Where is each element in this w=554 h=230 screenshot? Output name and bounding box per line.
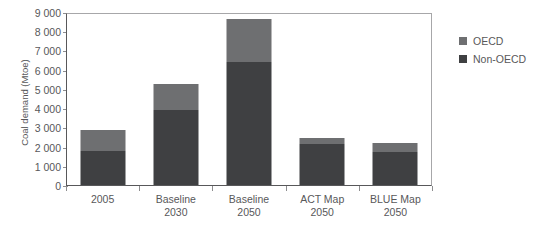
- bar-group: [67, 14, 431, 185]
- x-axis-label-group: 2005Baseline2030Baseline2050ACT Map2050B…: [66, 193, 432, 219]
- x-axis-tick-group: [66, 186, 432, 192]
- x-axis-category-label-line: 2050: [286, 206, 359, 219]
- y-axis-tick-label: 5 000: [14, 84, 61, 96]
- x-axis-tick-mark: [139, 186, 140, 191]
- y-axis-tick-group: 9 0008 0007 0006 0005 0004 0003 0002 000…: [14, 7, 61, 193]
- bar-segment-non-oecd[interactable]: [372, 152, 417, 185]
- x-axis-tick-mark: [66, 186, 67, 191]
- bar-segment-non-oecd[interactable]: [226, 62, 271, 185]
- bar-segment-non-oecd[interactable]: [154, 110, 199, 185]
- bar-slot: [358, 14, 431, 185]
- stacked-bar[interactable]: [299, 138, 344, 185]
- legend-item[interactable]: Non-OECD: [459, 51, 526, 67]
- bar-slot: [140, 14, 213, 185]
- x-axis-category-label-line: 2030: [139, 206, 212, 219]
- bar-slot: [213, 14, 286, 185]
- x-axis-tick-mark: [359, 186, 360, 191]
- bar-segment-non-oecd[interactable]: [81, 151, 126, 185]
- x-axis-category-label-line: 2050: [359, 206, 432, 219]
- x-axis-tick-mark: [432, 186, 433, 191]
- bar-slot: [67, 14, 140, 185]
- y-axis-tick-label: 9 000: [14, 7, 61, 19]
- y-axis-tick-label: 3 000: [14, 122, 61, 134]
- bar-slot: [285, 14, 358, 185]
- plot-area: [66, 13, 432, 186]
- bar-segment-oecd[interactable]: [372, 143, 417, 153]
- legend-item[interactable]: OECD: [459, 33, 526, 49]
- bar-segment-non-oecd[interactable]: [299, 144, 344, 185]
- legend-item-label: Non-OECD: [473, 53, 526, 65]
- bar-segment-oecd[interactable]: [154, 84, 199, 110]
- x-axis-tick-mark: [286, 186, 287, 191]
- x-axis-category-label: ACT Map2050: [286, 193, 359, 219]
- y-axis-tick-label: 4 000: [14, 103, 61, 115]
- x-axis-tick-mark: [212, 186, 213, 191]
- x-axis-category-label: Baseline2030: [139, 193, 212, 219]
- legend-swatch-icon: [459, 55, 467, 63]
- y-axis-tick-label: 7 000: [14, 45, 61, 57]
- x-axis-category-label-line: ACT Map: [286, 193, 359, 206]
- y-axis-tick-label: 8 000: [14, 26, 61, 38]
- legend-swatch-icon: [459, 37, 467, 45]
- x-axis-category-label: Baseline2050: [212, 193, 285, 219]
- x-axis-category-label-line: 2005: [66, 193, 139, 206]
- y-axis-tick-label: 2 000: [14, 142, 61, 154]
- bar-segment-oecd[interactable]: [81, 130, 126, 151]
- stacked-bar[interactable]: [81, 130, 126, 185]
- cropped-title-remnant: [150, 0, 380, 2]
- x-axis-category-label-line: 2050: [212, 206, 285, 219]
- y-axis-tick-label: 1 000: [14, 161, 61, 173]
- x-axis-category-label-line: Baseline: [139, 193, 212, 206]
- x-axis-category-label-line: Baseline: [212, 193, 285, 206]
- y-axis-tick-label: 0: [14, 180, 61, 192]
- coal-demand-stacked-bar-chart: Coal demand (Mtoe) 9 0008 0007 0006 0005…: [0, 0, 554, 230]
- bar-segment-oecd[interactable]: [226, 19, 271, 62]
- stacked-bar[interactable]: [154, 84, 199, 185]
- x-axis-category-label: BLUE Map2050: [359, 193, 432, 219]
- x-axis-category-label-line: BLUE Map: [359, 193, 432, 206]
- stacked-bar[interactable]: [226, 19, 271, 185]
- y-axis-tick-label: 6 000: [14, 65, 61, 77]
- stacked-bar[interactable]: [372, 143, 417, 185]
- x-axis-category-label: 2005: [66, 193, 139, 219]
- legend: OECDNon-OECD: [459, 33, 526, 69]
- legend-item-label: OECD: [473, 35, 503, 47]
